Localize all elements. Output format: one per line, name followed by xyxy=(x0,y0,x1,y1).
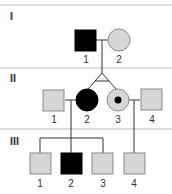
individual-ii-2-affected-female xyxy=(76,89,98,111)
individual-label-i-1: 1 xyxy=(83,54,89,65)
individual-label-ii-4: 4 xyxy=(149,114,155,125)
individual-label-ii-2: 2 xyxy=(84,114,90,125)
individual-label-i-2: 2 xyxy=(116,54,122,65)
individual-iii-4-unaffected-male xyxy=(124,153,145,174)
individual-label-iii-1: 1 xyxy=(37,178,43,189)
pedigree-chart: I II III 1 2 1 2 3 4 1 2 3 4 xyxy=(0,0,172,194)
individual-label-ii-3: 3 xyxy=(115,114,121,125)
individual-i-1-affected-male xyxy=(75,30,96,51)
generation-label-ii: II xyxy=(10,72,16,84)
individual-ii-4-unaffected-male xyxy=(141,89,162,110)
individual-label-iii-3: 3 xyxy=(100,178,106,189)
individual-i-2-unaffected-female xyxy=(108,29,130,51)
individual-label-ii-1: 1 xyxy=(51,114,57,125)
individual-label-iii-4: 4 xyxy=(131,178,137,189)
individual-iii-2-affected-male xyxy=(61,153,82,174)
generation-label-iii: III xyxy=(10,135,19,147)
carrier-dot-icon xyxy=(115,97,122,104)
individual-ii-1-unaffected-male xyxy=(43,90,64,111)
individual-label-iii-2: 2 xyxy=(68,178,74,189)
individual-iii-3-unaffected-male xyxy=(92,153,113,174)
generation-label-i: I xyxy=(10,10,13,22)
individual-iii-1-unaffected-male xyxy=(30,153,51,174)
